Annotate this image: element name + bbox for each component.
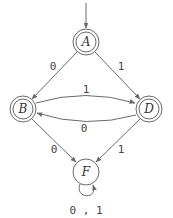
state-F-label: F bbox=[81, 165, 91, 179]
label-D-B: 0 bbox=[81, 122, 88, 135]
label-D-F: 1 bbox=[118, 143, 125, 156]
label-F-F: 0 , 1 bbox=[69, 204, 102, 217]
state-D-label: D bbox=[143, 102, 154, 116]
label-A-B: 0 bbox=[50, 60, 57, 73]
label-B-F: 0 bbox=[51, 143, 58, 156]
edge-D-B bbox=[37, 113, 136, 122]
state-B: B bbox=[10, 96, 36, 122]
label-B-D: 1 bbox=[83, 83, 90, 96]
edge-F-F bbox=[79, 184, 94, 196]
state-A: A bbox=[73, 29, 99, 55]
state-A-label: A bbox=[81, 35, 91, 49]
edge-B-D bbox=[36, 96, 135, 104]
label-A-D: 1 bbox=[118, 60, 125, 73]
state-B-label: B bbox=[18, 102, 28, 116]
state-D: D bbox=[136, 96, 162, 122]
state-F: F bbox=[73, 159, 99, 185]
dfa-diagram: A B D F 0 1 1 0 0 1 0 , 1 bbox=[0, 0, 173, 218]
